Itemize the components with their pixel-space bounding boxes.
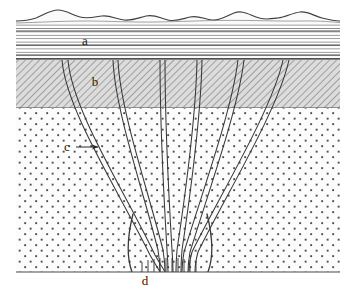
stippled-basement-layer xyxy=(16,108,340,272)
label-b: b xyxy=(92,74,99,89)
stratified-layer-a xyxy=(16,24,340,60)
cross-section-canvas: a b c d xyxy=(0,0,354,296)
topography-surface-layer xyxy=(16,10,340,24)
label-d: d xyxy=(142,273,149,288)
label-c: c xyxy=(64,139,70,154)
label-a: a xyxy=(82,33,88,48)
hatched-layer-b xyxy=(16,60,340,108)
geological-cross-section-figure: a b c d xyxy=(0,0,354,296)
